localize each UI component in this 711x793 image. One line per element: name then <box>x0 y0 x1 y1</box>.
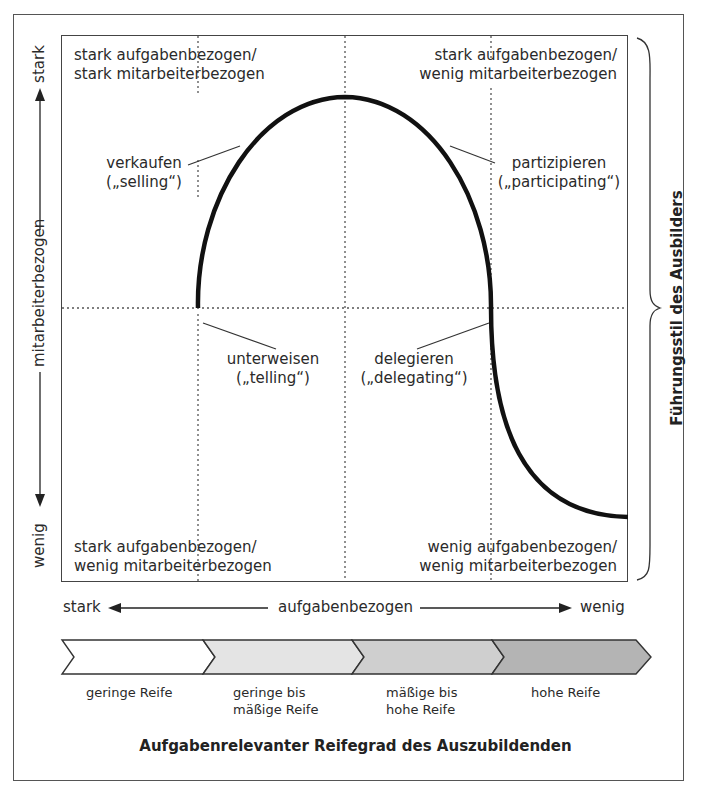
label-line: stark aufgabenbezogen/ <box>74 46 265 65</box>
style-label-delegating: delegieren („delegating“) <box>352 350 476 388</box>
leadership-style-axis-title: Führungsstil des Ausbilders <box>668 188 688 428</box>
y-axis-top-label: stark <box>30 44 50 84</box>
maturity-stage-label-3: mäßige bis hohe Reife <box>386 684 457 718</box>
stage-line: hohe Reife <box>386 701 457 718</box>
maturity-chevrons <box>62 640 651 674</box>
maturity-stage-label-4: hohe Reife <box>531 684 600 701</box>
dotted-grid <box>62 36 627 581</box>
label-line: stark mitarbeiterbezogen <box>74 65 265 84</box>
style-label-participating: partizipieren („participating“) <box>492 154 626 192</box>
maturity-axis-title: Aufgabenrelevanter Reifegrad des Auszubi… <box>0 737 711 755</box>
label-line: wenig mitarbeiterbezogen <box>419 557 617 576</box>
style-name: partizipieren <box>492 154 626 173</box>
style-name: unterweisen <box>218 350 328 369</box>
chevron-stage-3 <box>352 640 504 674</box>
style-name-english: („participating“) <box>492 173 626 192</box>
quadrant-bottom-left-label: stark aufgabenbezogen/ wenig mitarbeiter… <box>74 538 272 576</box>
stage-line: mäßige Reife <box>233 701 318 718</box>
x-axis-label: aufgabenbezogen <box>278 598 413 616</box>
x-axis-left-label: stark <box>63 598 101 616</box>
x-axis-right-label: wenig <box>580 598 625 616</box>
stage-line: mäßige bis <box>386 684 457 701</box>
quadrant-bottom-right-label: wenig aufgabenbezogen/ wenig mitarbeiter… <box>419 538 617 576</box>
maturity-stage-label-1: geringe Reife <box>86 684 172 701</box>
diagram-graphics <box>0 0 711 793</box>
y-axis-label: mitarbeiterbezogen <box>30 235 50 367</box>
label-line: stark aufgabenbezogen/ <box>419 46 617 65</box>
stage-line: geringe Reife <box>86 684 172 701</box>
style-name-english: („delegating“) <box>352 369 476 388</box>
right-brace <box>637 38 660 580</box>
y-axis-bottom-label: wenig <box>30 524 50 568</box>
style-name: delegieren <box>352 350 476 369</box>
label-line: wenig aufgabenbezogen/ <box>419 538 617 557</box>
style-label-selling: verkaufen („selling“) <box>98 154 190 192</box>
maturity-stage-label-2: geringe bis mäßige Reife <box>233 684 318 718</box>
style-name: verkaufen <box>98 154 190 173</box>
quadrant-top-right-label: stark aufgabenbezogen/ wenig mitarbeiter… <box>419 46 617 84</box>
style-label-telling: unterweisen („telling“) <box>218 350 328 388</box>
style-name-english: („selling“) <box>98 173 190 192</box>
chevron-stage-1 <box>62 640 215 674</box>
label-line: wenig mitarbeiterbezogen <box>74 557 272 576</box>
leader-lines <box>188 146 495 349</box>
chevron-stage-2 <box>203 640 364 674</box>
chevron-stage-4 <box>492 640 651 674</box>
quadrant-top-left-label: stark aufgabenbezogen/ stark mitarbeiter… <box>74 46 265 84</box>
stage-line: geringe bis <box>233 684 318 701</box>
label-line: wenig mitarbeiterbezogen <box>419 65 617 84</box>
stage-line: hohe Reife <box>531 684 600 701</box>
style-name-english: („telling“) <box>218 369 328 388</box>
label-line: stark aufgabenbezogen/ <box>74 538 272 557</box>
